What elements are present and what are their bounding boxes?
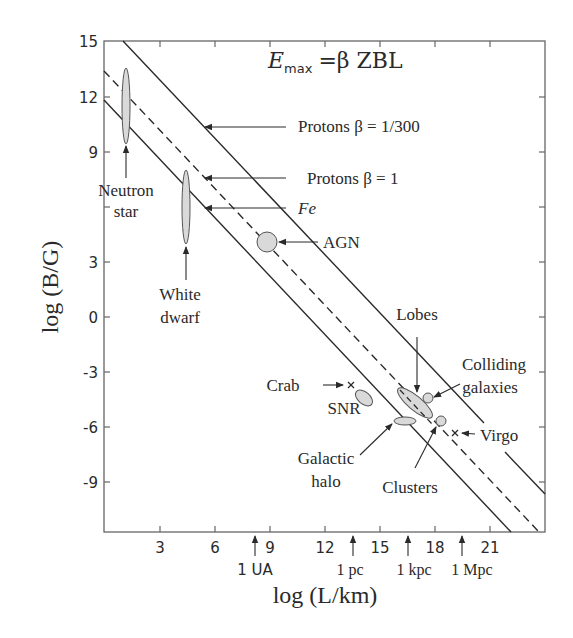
x-tick-labels: 3 6 9 12 15 18 21 [155, 539, 499, 557]
label-protons-1: Protons β = 1 [307, 169, 398, 188]
x-tick-label: 12 [315, 539, 334, 557]
label-virgo: Virgo [480, 426, 518, 445]
label-star: star [114, 202, 139, 221]
y-tick-labels: 15 12 9 3 0 -3 -6 -9 [79, 33, 98, 492]
label-snr: SNR [327, 399, 361, 418]
x-tick-label: 21 [480, 539, 499, 557]
y-tick-label: 9 [88, 144, 98, 162]
label-agn: AGN [323, 233, 360, 252]
line-protons-beta-1-300-cont [505, 452, 545, 494]
y-tick-label: 0 [88, 309, 98, 327]
colliding-galaxies-region [423, 393, 433, 403]
x-axis-title: log (L/km) [273, 582, 378, 608]
y-axis-title: log (B/G) [37, 241, 63, 334]
label-halo: halo [311, 472, 340, 491]
x-tick-label: 9 [265, 539, 275, 557]
x-tick-label: 15 [370, 539, 389, 557]
white-dwarf-region [182, 170, 190, 244]
label-neutron: Neutron [98, 181, 154, 200]
line-protons-beta-1-300 [123, 41, 484, 423]
label-galactic: Galactic [298, 449, 355, 468]
label-clusters: Clusters [382, 478, 438, 497]
label-fe: Fe [297, 199, 316, 218]
x-tick-label: 3 [155, 539, 165, 557]
y-tick-label: -9 [83, 474, 98, 492]
hillas-plot: 15 12 9 3 0 -3 -6 -9 3 6 9 12 15 18 21 1… [0, 0, 573, 638]
label-dwarf: dwarf [160, 308, 200, 327]
formula-title: Emax=β ZBL [267, 48, 403, 76]
label-white: White [159, 285, 201, 304]
label-crab: Crab [266, 376, 299, 395]
y-tick-label: 3 [88, 254, 98, 272]
virgo-marker [452, 430, 458, 436]
label-protons-1-300: Protons β = 1/300 [298, 117, 420, 136]
y-tick-label: 12 [79, 89, 98, 107]
x-tick-label: 18 [425, 539, 444, 557]
clusters-region [436, 416, 446, 426]
label-galaxies: galaxies [462, 378, 518, 397]
galactic-halo-region [394, 417, 416, 425]
label-lobes: Lobes [396, 305, 438, 324]
y-tick-label: 15 [79, 33, 98, 51]
label-colliding: Colliding [462, 355, 527, 374]
y-tick-label: -3 [83, 364, 98, 382]
crab-marker [348, 382, 354, 388]
neutron-star-region [122, 68, 130, 144]
marker-1-ua: 1 UA [237, 561, 273, 579]
agn-region [257, 232, 277, 252]
marker-1-kpc: 1 kpc [396, 561, 431, 579]
marker-1-pc: 1 pc [336, 561, 363, 579]
x-tick-label: 6 [210, 539, 220, 557]
y-tick-label: -6 [83, 419, 98, 437]
marker-1-mpc: 1 Mpc [451, 561, 492, 579]
